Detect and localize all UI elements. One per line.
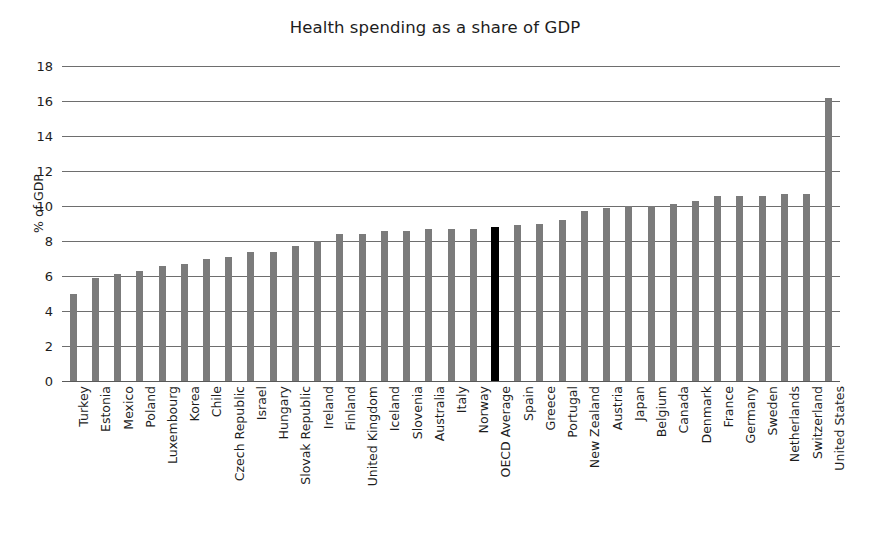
bar[interactable] xyxy=(781,194,788,381)
bar[interactable] xyxy=(381,231,388,382)
bar[interactable] xyxy=(203,259,210,382)
bar[interactable] xyxy=(92,278,99,381)
bar[interactable] xyxy=(581,211,588,381)
x-tick-label: Spain xyxy=(523,386,536,421)
gridline-14: 14 xyxy=(62,136,840,137)
gridline-0: 0 xyxy=(62,381,840,382)
bar[interactable] xyxy=(247,252,254,382)
bar[interactable] xyxy=(759,196,766,382)
x-tick-label: Korea xyxy=(189,386,202,421)
x-tick-label: Austria xyxy=(612,386,625,430)
y-tick-label-18: 18 xyxy=(36,59,53,74)
bar[interactable] xyxy=(292,246,299,381)
bar[interactable] xyxy=(803,194,810,381)
x-tick-label: Switzerland xyxy=(812,386,825,459)
x-tick-label: New Zealand xyxy=(589,386,602,468)
x-tick-label: Japan xyxy=(634,386,647,421)
bar[interactable] xyxy=(514,225,521,381)
bar[interactable] xyxy=(136,271,143,381)
x-tick-label: United Kingdom xyxy=(367,386,380,486)
bar[interactable] xyxy=(336,234,343,381)
bar[interactable] xyxy=(448,229,455,381)
bar[interactable] xyxy=(714,196,721,382)
x-tick-label: Australia xyxy=(434,386,447,441)
y-tick-label-2: 2 xyxy=(45,339,53,354)
x-tick-label: Czech Republic xyxy=(234,386,247,481)
chart-figure: Health spending as a share of GDP % of G… xyxy=(0,0,870,534)
x-tick-label: Norway xyxy=(478,386,491,433)
x-tick-label: United States xyxy=(834,386,847,471)
y-tick-label-16: 16 xyxy=(36,94,53,109)
x-tick-label: Germany xyxy=(745,386,758,443)
y-tick-label-4: 4 xyxy=(45,304,53,319)
bar[interactable] xyxy=(181,264,188,381)
y-tick-label-14: 14 xyxy=(36,129,53,144)
x-tick-label: Poland xyxy=(145,386,158,428)
x-tick-label: Netherlands xyxy=(789,386,802,462)
bar[interactable] xyxy=(603,208,610,381)
bar[interactable] xyxy=(114,274,121,381)
plot-area: 024681012141618 xyxy=(62,66,840,381)
bar[interactable] xyxy=(491,227,499,381)
x-tick-label: Sweden xyxy=(767,386,780,435)
gridline-10: 10 xyxy=(62,206,840,207)
x-tick-label: Belgium xyxy=(656,386,669,437)
x-tick-label: Finland xyxy=(345,386,358,431)
x-tick-label: Portugal xyxy=(567,386,580,438)
bar[interactable] xyxy=(425,229,432,381)
chart-title: Health spending as a share of GDP xyxy=(0,18,870,37)
y-tick-label-6: 6 xyxy=(45,269,53,284)
bar[interactable] xyxy=(648,206,655,381)
bar[interactable] xyxy=(359,234,366,381)
bar[interactable] xyxy=(692,201,699,381)
x-tick-label: Slovenia xyxy=(412,386,425,439)
x-tick-label: Ireland xyxy=(323,386,336,429)
x-tick-label: Italy xyxy=(456,386,469,413)
x-tick-label: Slovak Republic xyxy=(300,386,313,485)
x-tick-label: Hungary xyxy=(278,386,291,439)
x-tick-label: Canada xyxy=(678,386,691,434)
bar[interactable] xyxy=(403,231,410,382)
x-tick-label: Mexico xyxy=(123,386,136,430)
bar[interactable] xyxy=(70,294,77,382)
x-tick-label: Chile xyxy=(211,386,224,417)
y-tick-label-12: 12 xyxy=(36,164,53,179)
bar[interactable] xyxy=(314,241,321,381)
gridline-18: 18 xyxy=(62,66,840,67)
bar[interactable] xyxy=(536,224,543,382)
bar[interactable] xyxy=(670,204,677,381)
x-tick-label: Iceland xyxy=(389,386,402,431)
bar[interactable] xyxy=(825,98,832,382)
bar[interactable] xyxy=(225,257,232,381)
x-tick-label: Greece xyxy=(545,386,558,431)
y-tick-label-8: 8 xyxy=(45,234,53,249)
bar[interactable] xyxy=(159,266,166,382)
bar[interactable] xyxy=(270,252,277,382)
x-tick-label: France xyxy=(723,386,736,428)
x-tick-label: Luxembourg xyxy=(167,386,180,464)
x-tick-label: OECD Average xyxy=(500,386,513,477)
gridline-12: 12 xyxy=(62,171,840,172)
gridline-16: 16 xyxy=(62,101,840,102)
bar[interactable] xyxy=(470,229,477,381)
bar[interactable] xyxy=(559,220,566,381)
x-tick-label: Estonia xyxy=(100,386,113,432)
bar[interactable] xyxy=(625,206,632,381)
y-tick-label-0: 0 xyxy=(45,374,53,389)
x-axis-tick-labels: TurkeyEstoniaMexicoPolandLuxembourgKorea… xyxy=(62,386,840,526)
y-tick-label-10: 10 xyxy=(36,199,53,214)
x-tick-label: Turkey xyxy=(78,386,91,427)
x-tick-label: Denmark xyxy=(701,386,714,443)
bar[interactable] xyxy=(736,196,743,382)
x-tick-label: Israel xyxy=(256,386,269,420)
